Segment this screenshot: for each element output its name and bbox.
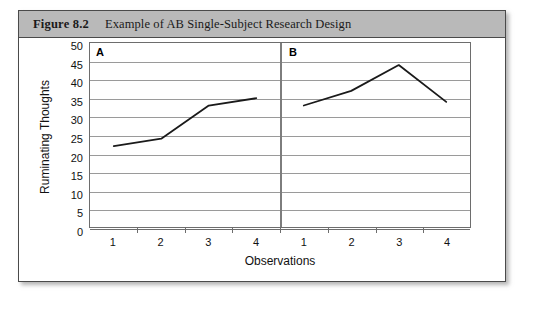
figure-number: Figure 8.2 [33,17,89,32]
x-tick-label-A-1: 1 [110,236,116,248]
y-tick-label-10: 10 [71,189,83,201]
y-tick-label-45: 45 [71,59,83,71]
x-tick-mark-1 [137,228,138,233]
y-tick-label-35: 35 [71,96,83,108]
x-tick-mark-5 [328,228,329,233]
data-series-lines [90,43,470,227]
x-tick-label-B-3: 3 [396,236,402,248]
x-axis-title: Observations [89,254,471,268]
x-tick-label-A-3: 3 [205,236,211,248]
y-axis-title: Ruminating Thoughts [38,57,52,217]
x-tick-label-B-1: 1 [301,236,307,248]
page-edge-artifact [14,296,274,305]
y-tick-label-30: 30 [71,114,83,126]
y-axis-tick-labels: 50454035302520151050 [57,42,83,228]
y-tick-label-5: 5 [77,207,83,219]
y-tick-label-0: 0 [77,226,83,238]
x-tick-label-A-4: 4 [253,236,259,248]
x-tick-label-B-4: 4 [444,236,450,248]
x-axis-tick-labels: 12341234 [89,236,471,252]
series-line-phase-B [304,65,446,105]
x-tick-label-A-2: 2 [158,236,164,248]
y-tick-label-50: 50 [71,40,83,52]
x-tick-mark-6 [376,228,377,233]
x-tick-mark-7 [423,228,424,233]
figure-panel: Figure 8.2 Example of AB Single-Subject … [18,10,506,282]
figure-header: Figure 8.2 Example of AB Single-Subject … [19,11,505,38]
x-tick-mark-4 [280,228,281,233]
x-tick-mark-3 [232,228,233,233]
chart-area: Ruminating Thoughts 50454035302520151050… [19,38,505,282]
y-tick-label-15: 15 [71,170,83,182]
x-tick-label-B-2: 2 [349,236,355,248]
x-tick-mark-2 [185,228,186,233]
y-tick-label-40: 40 [71,77,83,89]
series-line-phase-A [114,98,256,146]
x-axis-tick-marks [89,228,471,236]
plot-frame: A B [89,42,471,228]
y-tick-label-25: 25 [71,133,83,145]
y-tick-label-20: 20 [71,152,83,164]
figure-title: Example of AB Single-Subject Research De… [105,17,351,32]
